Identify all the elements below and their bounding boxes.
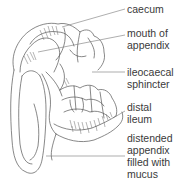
caecum-outline xyxy=(13,23,105,70)
anatomy-diagram: caecum mouth of appendix ileocaecal sphi… xyxy=(0,0,175,180)
label-caecum: caecum xyxy=(127,3,175,15)
leader-line-mouth-of-appendix xyxy=(38,35,125,52)
leader-line-distal-ileum xyxy=(113,111,125,118)
label-distal-ileum: distal ileum xyxy=(127,101,175,125)
label-ileocaecal-sphincter: ileocaecal sphincter xyxy=(127,66,175,90)
leader-line-caecum xyxy=(62,9,125,27)
appendix-outline xyxy=(11,70,46,173)
label-distended-appendix: distended appendix filled with mucus xyxy=(127,132,175,180)
label-mouth-of-appendix: mouth of appendix xyxy=(127,27,175,51)
